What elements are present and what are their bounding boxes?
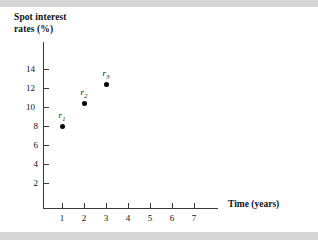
x-tick-mark (128, 203, 129, 208)
x-tick-label: 4 (121, 213, 135, 223)
y-tick-label: 14 (15, 64, 35, 74)
x-tick-label: 6 (165, 213, 179, 223)
y-tick-label: 4 (18, 159, 38, 169)
y-tick-mark (44, 164, 49, 165)
x-tick-mark (62, 203, 63, 208)
x-tick-label: 7 (187, 213, 201, 223)
data-point (60, 124, 65, 129)
x-axis-label: Time (years) (228, 199, 279, 209)
data-point-label: r2 (81, 87, 88, 99)
y-tick-label: 6 (18, 140, 38, 150)
scatter-plot: Spot interest rates (%) Time (years) 2 4… (0, 0, 318, 240)
data-point-label: r3 (103, 68, 110, 80)
y-tick-label: 8 (18, 121, 38, 131)
y-tick-mark (44, 88, 49, 89)
x-axis-line (43, 208, 218, 209)
x-tick-label: 2 (77, 213, 91, 223)
data-point-label-subscript: 2 (84, 92, 87, 99)
y-tick-label: 12 (15, 83, 35, 93)
data-point-label-subscript: 1 (62, 115, 65, 122)
y-tick-mark (44, 126, 49, 127)
data-point (104, 82, 109, 87)
x-tick-mark (84, 203, 85, 208)
y-tick-mark (44, 183, 49, 184)
y-tick-label: 2 (18, 178, 38, 188)
data-point-label: r1 (59, 110, 66, 122)
x-tick-label: 3 (99, 213, 113, 223)
x-tick-mark (194, 203, 195, 208)
x-tick-mark (172, 203, 173, 208)
y-tick-label: 10 (15, 102, 35, 112)
x-tick-mark (106, 203, 107, 208)
figure-canvas: Spot interest rates (%) Time (years) 2 4… (0, 0, 318, 240)
x-tick-mark (150, 203, 151, 208)
data-point-label-subscript: 3 (106, 73, 109, 80)
x-tick-label: 5 (143, 213, 157, 223)
data-point (82, 101, 87, 106)
y-tick-mark (44, 145, 49, 146)
y-axis-label: Spot interest rates (%) (14, 12, 67, 35)
y-tick-mark (44, 107, 49, 108)
x-tick-label: 1 (55, 213, 69, 223)
y-tick-mark (44, 69, 49, 70)
